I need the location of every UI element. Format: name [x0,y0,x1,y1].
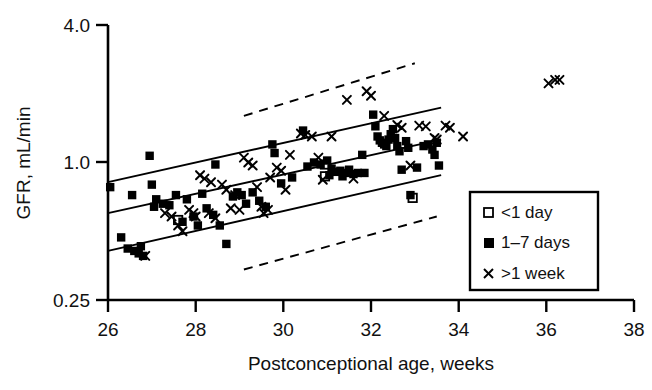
chart-canvas: 4.0 1.0 0.25 26 28 30 32 34 36 38 GFR, m… [0,0,652,390]
data-point-filled-square [358,151,366,159]
data-point-cross [555,76,563,84]
data-point-filled-square [137,242,145,250]
data-point-filled-square [395,147,403,155]
legend-label-1to7days: 1–7 days [501,233,570,252]
legend-label-gt1week: >1 week [501,264,565,283]
data-point-cross [459,132,467,140]
data-point-filled-square [268,140,276,148]
data-point-filled-square [194,221,202,229]
data-point-cross [380,112,388,120]
lower-prediction-solid [108,175,441,251]
data-point-filled-square [435,161,443,169]
data-point-filled-square [406,191,414,199]
data-point-filled-square [117,233,125,241]
data-point-filled-square [270,149,278,157]
y-tick-label-025: 0.25 [53,290,90,311]
data-point-filled-square [165,201,173,209]
data-point-filled-square [145,152,153,160]
data-point-filled-square [222,240,230,248]
data-point-filled-square [211,160,219,168]
data-point-filled-square [128,191,136,199]
data-point-cross [236,206,244,214]
data-point-filled-square [183,195,191,203]
data-point-filled-square [371,122,379,130]
x-tick-label-30: 30 [273,319,294,340]
legend: <1 day 1–7 days >1 week [470,192,598,290]
data-point-filled-square [430,151,438,159]
y-tick-label-4: 4.0 [64,15,90,36]
upper-confidence-dashed [244,63,415,116]
x-axis-title: Postconceptional age, weeks [248,353,494,374]
data-point-cross [343,96,351,104]
data-point-cross [328,132,336,140]
data-point-filled-square [391,134,399,142]
data-point-filled-square [148,180,156,188]
data-point-cross [282,186,290,194]
data-point-filled-square [106,183,114,191]
data-point-filled-square [323,156,331,164]
data-point-cross [253,183,261,191]
x-tick-label-36: 36 [536,319,557,340]
data-point-filled-square [288,173,296,181]
legend-label-lt1day: <1 day [501,203,553,222]
data-point-filled-square [150,203,158,211]
y-axis-title: GFR, mL/min [13,107,34,220]
lower-confidence-dashed [244,217,437,270]
data-point-filled-square [172,191,180,199]
data-point-cross [227,204,235,212]
data-point-cross [422,122,430,130]
data-point-filled-square [369,110,377,118]
y-tick-label-1: 1.0 [64,152,90,173]
x-tick-label-34: 34 [448,319,470,340]
data-point-filled-square [360,169,368,177]
data-point-filled-square [413,163,421,171]
x-tick-label-32: 32 [360,319,381,340]
x-tick-label-26: 26 [97,319,118,340]
x-tick-label-28: 28 [185,319,206,340]
legend-marker-filled-square [484,238,494,248]
legend-marker-open-square [484,208,493,217]
x-tick-label-38: 38 [623,319,644,340]
data-point-cross [277,167,285,175]
data-point-filled-square [198,190,206,198]
data-point-filled-square [404,144,412,152]
data-point-cross [286,151,294,159]
gfr-scatter-figure: 4.0 1.0 0.25 26 28 30 32 34 36 38 GFR, m… [0,0,652,390]
data-point-cross [367,92,375,100]
data-point-cross [249,162,257,170]
data-point-filled-square [397,165,405,173]
